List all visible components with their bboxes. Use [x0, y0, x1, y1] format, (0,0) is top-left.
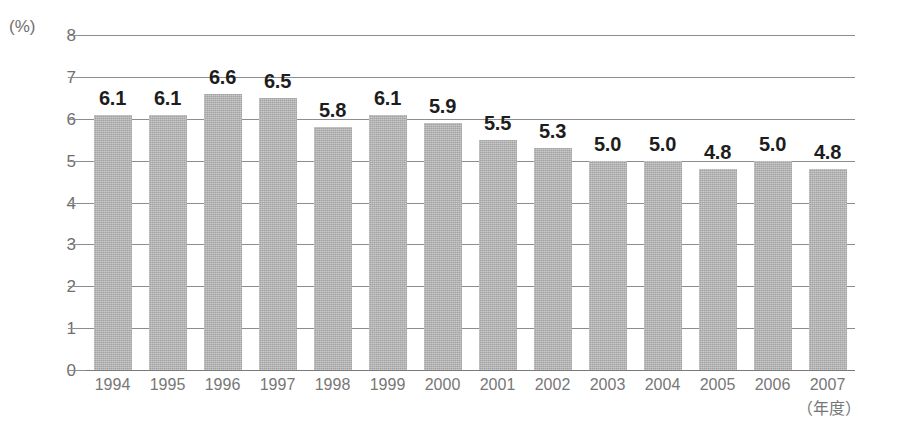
bar-1994[interactable] — [94, 115, 132, 370]
x-tick-label-2000: 2000 — [415, 376, 471, 394]
bar-group[interactable]: 5.5 — [479, 35, 517, 370]
y-tickmark-7 — [68, 77, 86, 78]
bar-group[interactable]: 5.0 — [644, 35, 682, 370]
x-tick-label-2003: 2003 — [580, 376, 636, 394]
x-axis-unit-label: （年度） — [797, 400, 861, 418]
bar-value-label-2004: 5.0 — [635, 134, 691, 154]
bar-2007[interactable] — [809, 169, 847, 370]
x-tick-label-1996: 1996 — [195, 376, 251, 394]
bar-2002[interactable] — [534, 148, 572, 370]
bar-2003[interactable] — [589, 161, 627, 370]
x-axis: 1994199519961997199819992000200120022003… — [85, 376, 855, 436]
bars-layer: 6.16.16.66.55.86.15.95.55.35.05.04.85.04… — [85, 35, 855, 370]
bar-group[interactable]: 6.1 — [149, 35, 187, 370]
x-tick-label-1995: 1995 — [140, 376, 196, 394]
bar-1995[interactable] — [149, 115, 187, 370]
bar-value-label-2006: 5.0 — [745, 134, 801, 154]
y-tickmark-2 — [68, 286, 86, 287]
bar-value-label-2005: 4.8 — [690, 142, 746, 162]
bar-group[interactable]: 5.0 — [754, 35, 792, 370]
bar-2004[interactable] — [644, 161, 682, 370]
bar-value-label-2002: 5.3 — [525, 121, 581, 141]
x-tick-label-1997: 1997 — [250, 376, 306, 394]
bar-group[interactable]: 6.5 — [259, 35, 297, 370]
x-tick-label-1999: 1999 — [360, 376, 416, 394]
bar-group[interactable]: 6.1 — [369, 35, 407, 370]
y-tickmark-0 — [68, 370, 86, 371]
y-axis-unit-label: (%) — [9, 18, 35, 35]
bar-1999[interactable] — [369, 115, 407, 370]
bar-value-label-1997: 6.5 — [250, 71, 306, 91]
bar-value-label-2003: 5.0 — [580, 134, 636, 154]
bar-2001[interactable] — [479, 140, 517, 370]
bar-group[interactable]: 4.8 — [809, 35, 847, 370]
bar-value-label-1994: 6.1 — [85, 88, 141, 108]
bar-1997[interactable] — [259, 98, 297, 370]
x-tick-label-1994: 1994 — [85, 376, 141, 394]
x-tick-label-2007: 2007 — [800, 376, 856, 394]
bar-value-label-1998: 5.8 — [305, 100, 361, 120]
bar-value-label-2007: 4.8 — [800, 142, 856, 162]
y-tickmark-4 — [68, 203, 86, 204]
bar-group[interactable]: 6.1 — [94, 35, 132, 370]
bar-value-label-1996: 6.6 — [195, 67, 251, 87]
x-tick-label-2006: 2006 — [745, 376, 801, 394]
gridline-0 — [85, 370, 855, 371]
bar-1996[interactable] — [204, 94, 242, 370]
bar-group[interactable]: 5.3 — [534, 35, 572, 370]
x-tick-label-2005: 2005 — [690, 376, 746, 394]
x-tick-label-2002: 2002 — [525, 376, 581, 394]
bar-value-label-1995: 6.1 — [140, 88, 196, 108]
bar-value-label-1999: 6.1 — [360, 88, 416, 108]
bar-group[interactable]: 5.0 — [589, 35, 627, 370]
y-tickmark-5 — [68, 161, 86, 162]
y-tickmark-6 — [68, 119, 86, 120]
x-tick-label-2001: 2001 — [470, 376, 526, 394]
y-tickmark-3 — [68, 244, 86, 245]
bar-group[interactable]: 5.8 — [314, 35, 352, 370]
bar-group[interactable]: 5.9 — [424, 35, 462, 370]
bar-group[interactable]: 6.6 — [204, 35, 242, 370]
y-tickmark-1 — [68, 328, 86, 329]
bar-chart: 876543210 (%) 6.16.16.66.55.86.15.95.55.… — [0, 0, 901, 439]
x-tick-label-2004: 2004 — [635, 376, 691, 394]
bar-group[interactable]: 4.8 — [699, 35, 737, 370]
bar-2000[interactable] — [424, 123, 462, 370]
y-axis: 876543210 — [24, 35, 76, 370]
bar-value-label-2000: 5.9 — [415, 96, 471, 116]
bar-value-label-2001: 5.5 — [470, 113, 526, 133]
bar-1998[interactable] — [314, 127, 352, 370]
bar-2005[interactable] — [699, 169, 737, 370]
y-tickmark-8 — [68, 35, 86, 36]
bar-2006[interactable] — [754, 161, 792, 370]
x-tick-label-1998: 1998 — [305, 376, 361, 394]
